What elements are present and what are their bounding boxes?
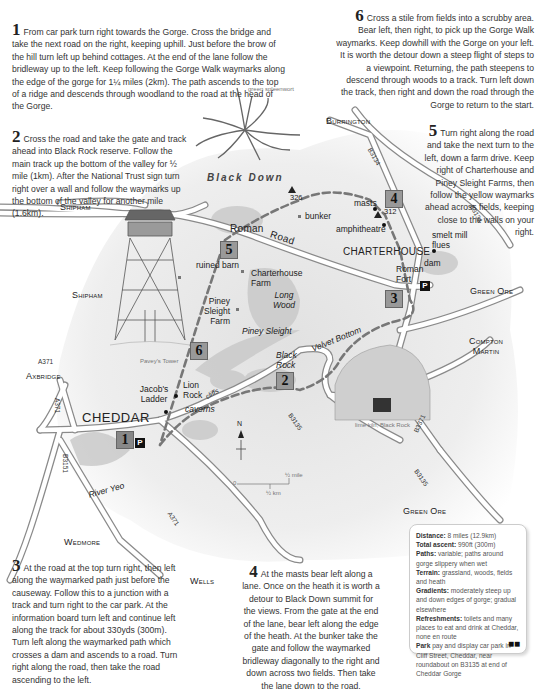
route-marker-3: 3 — [385, 290, 403, 308]
route-marker-1: 1 — [116, 431, 134, 449]
label-jacobs-ladder: Jacob's Ladder — [138, 384, 170, 404]
place-axbridge: Axbridge — [26, 371, 61, 381]
place-wedmore: Wedmore — [64, 537, 100, 547]
caption-limekiln: lime kiln, Black Rock — [355, 422, 410, 428]
info-terrain: Terrain: grassland, woods, fields and he… — [416, 568, 520, 586]
step-1-text: From car park turn right towards the Gor… — [12, 27, 285, 111]
place-green-ore-top: Green Ore — [470, 286, 513, 296]
label-lion-rock: Lion Rock — [183, 380, 203, 400]
step-4-number: 4 — [249, 562, 258, 581]
walk-info-box: Distance: 8 miles (12.9km) Total ascent:… — [409, 524, 527, 654]
info-gradients: Gradients: moderately steep up and down … — [416, 586, 520, 614]
place-burrington: Burrington — [326, 116, 370, 126]
label-piney-sleight-farm: Piney Sleight Farm — [184, 296, 230, 326]
step-3: 3At the road at the top turn right, then… — [12, 560, 182, 686]
route-marker-6: 6 — [190, 342, 208, 360]
scale-zero: 0 — [233, 480, 236, 486]
step-6-number: 6 — [355, 6, 364, 25]
label-piney-sleight: Piney Sleight — [242, 326, 292, 336]
label-masts: masts — [354, 198, 377, 208]
label-bunker: bunker — [305, 211, 331, 221]
place-green-ore-bottom: Green Ore — [403, 506, 446, 516]
road-a371-vertical: A371 — [54, 398, 61, 413]
info-refreshments: Refreshments: toilets and many places to… — [416, 614, 520, 642]
route-marker-5: 5 — [220, 241, 238, 259]
info-distance: Distance: 8 miles (12.9km) — [416, 531, 520, 540]
step-6: 6Cross a stile from fields into a scrubb… — [336, 10, 534, 111]
label-roman-fort: Roman Fort — [396, 264, 422, 284]
step-3-text: At the road at the top turn right, then … — [12, 563, 177, 685]
place-black-down: Black Down — [207, 172, 284, 183]
place-compton-martin: Compton Martin — [466, 336, 506, 356]
label-black-rock: Black Rock — [276, 350, 300, 370]
label-ruined-barn: ruined barn — [196, 260, 239, 270]
step-1: 1From car park turn right towards the Go… — [12, 24, 287, 113]
label-amphitheatre: amphitheatre — [336, 224, 386, 234]
step-5-number: 5 — [429, 121, 438, 140]
caption-tower: Pavey's Tower — [140, 358, 178, 364]
place-wells: Wells — [190, 576, 214, 586]
parking-icon-cheddar: P — [135, 438, 145, 448]
road-b3151: B3151 — [62, 454, 69, 473]
compass-north-label: N — [237, 420, 242, 427]
caption-fern: green spleenwort — [248, 86, 294, 92]
info-paths: Paths: variable; paths around gorge slip… — [416, 549, 520, 567]
label-peak-312: 312 — [384, 207, 397, 216]
label-peak-326: 326 — [290, 193, 303, 202]
route-marker-2: 2 — [276, 372, 294, 390]
road-a371-left: A371 — [38, 358, 53, 365]
scale-km: ½ km — [266, 490, 281, 496]
step-3-number: 3 — [12, 556, 21, 575]
scale-miles: ½ mile — [285, 472, 303, 478]
place-cheddar: CHEDDAR — [82, 410, 150, 425]
step-4-text: At the masts bear left along a lane. Onc… — [242, 569, 380, 691]
step-1-number: 1 — [12, 20, 21, 39]
step-2-number: 2 — [12, 127, 21, 146]
boots-icon: ■■ — [508, 639, 520, 648]
place-shipham-top: Shipham — [60, 202, 91, 212]
label-dam: dam — [424, 258, 441, 268]
step-2: 2Cross the road and take the gate and tr… — [12, 131, 187, 220]
place-shipham-mid: Shipham — [72, 290, 103, 300]
label-smelt-mill-flues: smelt mill flues — [432, 230, 472, 250]
parking-icon-charterhouse: P — [420, 281, 430, 291]
label-charterhouse-farm: Charterhouse Farm — [251, 268, 306, 288]
step-4: 4At the masts bear left along a lane. On… — [242, 566, 380, 692]
label-long-wood: Long Wood — [270, 290, 298, 310]
step-2-text: Cross the road and take the gate and tra… — [12, 134, 186, 218]
info-park: Park pay and display car park in Cliff S… — [416, 641, 520, 678]
info-ascent: Total ascent: 990ft (300m) — [416, 540, 520, 549]
label-roman: Roman — [230, 223, 264, 234]
step-6-text: Cross a stile from fields into a scrubby… — [336, 13, 534, 110]
label-caverns: caverns — [185, 404, 215, 414]
place-charterhouse: CHARTERHOUSE — [343, 246, 430, 257]
route-marker-4: 4 — [385, 190, 403, 208]
